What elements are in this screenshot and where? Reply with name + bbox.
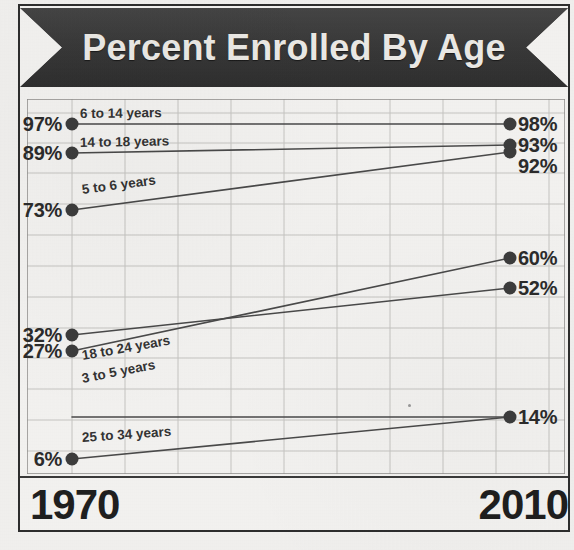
marker-5-to-6-1970	[66, 204, 79, 217]
value-2010-14-to-18: 93%	[518, 134, 557, 157]
series-label-14-to-18: 14 to 18 years	[80, 133, 170, 150]
value-2010-6-to-14: 98%	[518, 113, 557, 136]
value-1970-25-to-34: 6%	[16, 448, 62, 471]
axis-label-year-start: 1970	[30, 481, 119, 529]
scan-speck	[358, 60, 360, 62]
series-label-6-to-14: 6 to 14 years	[80, 105, 162, 121]
marker-18-to-24-2010	[504, 282, 517, 295]
value-2010-3-to-5: 60%	[518, 247, 557, 270]
value-1970-6-to-14: 97%	[16, 113, 62, 136]
value-1970-5-to-6: 73%	[16, 199, 62, 222]
value-2010-25-to-34: 14%	[518, 406, 557, 429]
chart-svg	[27, 99, 565, 474]
value-1970-14-to-18: 89%	[16, 142, 62, 165]
axis-label-year-end: 2010	[479, 481, 568, 529]
marker-5-to-6-2010	[504, 146, 517, 159]
value-1970-3-to-5: 27%	[16, 340, 62, 363]
value-2010-5-to-6: 92%	[518, 155, 557, 178]
value-2010-18-to-24: 52%	[518, 277, 557, 300]
page-title: Percent Enrolled By Age	[20, 8, 568, 87]
title-banner: Percent Enrolled By Age	[20, 8, 568, 87]
marker-25-to-34-1970	[66, 453, 79, 466]
marker-6-to-14-2010	[504, 118, 517, 131]
marker-6-to-14-1970	[66, 118, 79, 131]
chart-plot	[27, 99, 565, 474]
marker-25-to-34-2010	[504, 411, 517, 424]
marker-3-to-5-1970	[66, 345, 79, 358]
scan-speck	[408, 404, 411, 407]
marker-14-to-18-1970	[66, 147, 79, 160]
marker-18-to-24-1970	[66, 329, 79, 342]
marker-3-to-5-2010	[504, 252, 517, 265]
